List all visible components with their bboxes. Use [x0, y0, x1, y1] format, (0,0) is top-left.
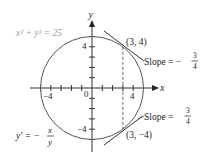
y-axis-label: y — [88, 9, 94, 20]
x-axis-arrow-icon — [152, 85, 159, 91]
equation-label: x² + y² = 25 — [15, 28, 62, 38]
tick-label-x-neg4: −4 — [43, 91, 53, 101]
origin-label: 0 — [84, 89, 89, 99]
slope-bottom-num: 3 — [186, 106, 190, 115]
point-label-top: (3, 4) — [126, 37, 147, 48]
derivative-den: y — [47, 137, 52, 147]
slope-label-bottom: Slope = — [144, 112, 173, 122]
slope-bottom-den: 4 — [186, 117, 190, 126]
slope-label-top: Slope = − — [144, 57, 181, 67]
tick-label-y-4: 4 — [82, 41, 87, 51]
slope-top-den: 4 — [193, 62, 197, 71]
x-axis-label: x — [159, 82, 165, 93]
tick-label-y-neg4: −4 — [77, 124, 87, 134]
tick-label-x-4: 4 — [130, 91, 135, 101]
circle-tangent-diagram: y x 0 −4 4 4 −4 x² + y² = 25 (3, 4) (3, … — [0, 0, 205, 157]
derivative-num: x — [47, 125, 52, 135]
slope-top-num: 3 — [193, 51, 197, 60]
point-label-bottom: (3, −4) — [126, 130, 152, 141]
derivative-label: y′ = − — [15, 131, 40, 141]
y-axis-arrow-icon — [89, 20, 95, 27]
